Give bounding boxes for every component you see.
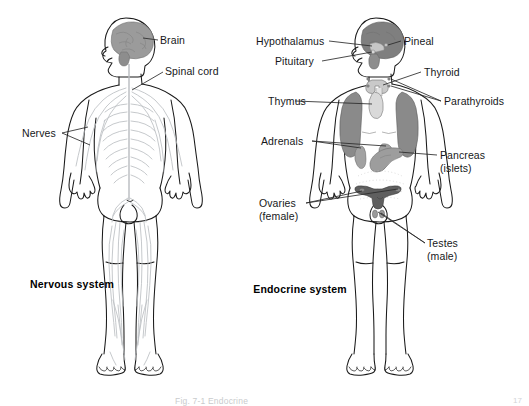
label-brain: Brain	[160, 34, 185, 47]
label-pancreas-group: Pancreas (islets)	[440, 149, 485, 174]
label-spinal-cord: Spinal cord	[165, 65, 219, 78]
caption-endocrine-system-text: Endocrine system	[253, 283, 347, 295]
label-pancreas: Pancreas	[440, 149, 485, 162]
label-ovaries-sub: (female)	[259, 210, 298, 223]
label-testes: Testes	[427, 237, 458, 250]
parathyroid-dot	[367, 78, 370, 81]
caption-endocrine-system: Endocrine system	[250, 282, 350, 296]
label-hypothalamus: Hypothalamus	[256, 35, 324, 48]
caption-nervous-system: Nervous system	[22, 277, 122, 291]
label-testes-group: Testes (male)	[427, 237, 458, 262]
figure-footer-caption: Fig. 7-1 Endocrine	[175, 396, 248, 406]
label-thyroid: Thyroid	[424, 66, 460, 79]
label-thymus: Thymus	[268, 95, 306, 108]
label-ovaries: Ovaries	[259, 197, 298, 210]
parathyroid-dot	[367, 85, 370, 88]
label-adrenals: Adrenals	[261, 135, 303, 148]
endocrine-leader-lines	[295, 41, 441, 243]
label-ovaries-group: Ovaries (female)	[259, 197, 298, 222]
parathyroid-dot	[388, 78, 391, 81]
label-pituitary: Pituitary	[275, 55, 314, 68]
thymus-organ	[369, 92, 383, 118]
label-pancreas-sub: (islets)	[440, 162, 485, 175]
label-pineal: Pineal	[404, 35, 434, 48]
label-testes-sub: (male)	[427, 250, 458, 263]
caption-nervous-system-text: Nervous system	[30, 278, 114, 290]
label-parathyroids: Parathyroids	[444, 95, 504, 108]
pancreas-organ	[370, 148, 403, 172]
brain-organ	[111, 22, 153, 66]
ovary-right	[395, 188, 400, 192]
label-nerves: Nerves	[22, 127, 56, 140]
page-number: 17	[513, 396, 522, 405]
spinal-cord-organ	[128, 62, 130, 208]
parathyroid-dot	[388, 85, 391, 88]
